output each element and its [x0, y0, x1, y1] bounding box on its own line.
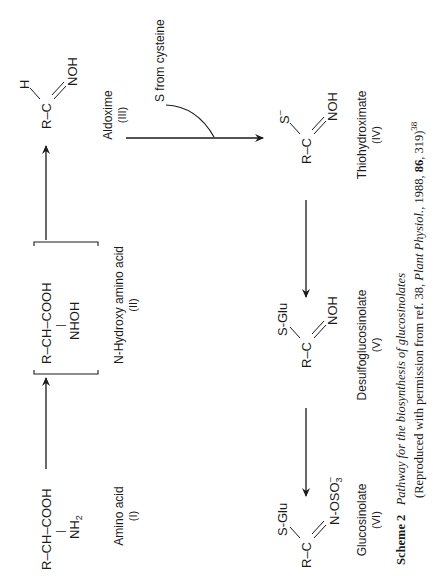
compound-name: Aldoxime — [101, 90, 115, 139]
compound-amino-acid-substituent: NH2 — [68, 515, 84, 539]
compound-thiohydroximate-bottom: NOH — [326, 92, 339, 121]
bond-bar: | — [54, 324, 66, 327]
label-n-hydroxy-amino-acid: N-Hydroxy amino acid (II) — [113, 240, 139, 370]
scheme-title: Pathway for the biosynthesis of glucosin… — [394, 273, 408, 505]
compound-n-hydroxy-substituent: NHOH — [68, 302, 81, 340]
compound-aldoxime-top: H — [18, 80, 31, 89]
compound-name: Glucosinolate — [355, 484, 369, 557]
compound-name: Desulfoglucosinolate — [355, 290, 369, 401]
compound-name: Amino acid — [112, 486, 126, 545]
cysteine-input-curve — [166, 105, 214, 137]
subscript: 2 — [74, 515, 84, 520]
noh-group: NOH — [65, 57, 80, 86]
compound-desulfoglucosinolate-core: R–C — [300, 342, 313, 368]
compound-name: N-Hydroxy amino acid — [112, 246, 126, 364]
compound-desulfoglucosinolate-top: S-Glu — [276, 303, 289, 336]
compound-glucosinolate-bottom: N-OSO3– — [326, 477, 344, 525]
pages: , 319) — [412, 131, 426, 160]
compound-glucosinolate-core: R–C — [300, 542, 313, 568]
compound-numeral: (V) — [370, 285, 383, 405]
compound-amino-acid-bond: | — [55, 530, 66, 533]
compound-glucosinolate-top: S-Glu — [276, 503, 289, 536]
compound-amino-acid-formula: R–CH–COOH — [40, 488, 53, 570]
nhoh-group: NHOH — [67, 302, 82, 340]
nh-group: NH — [67, 520, 82, 539]
s-glu-group: S-Glu — [275, 303, 290, 336]
bond-bar: | — [54, 530, 66, 533]
compound-thiohydroximate-top: S– — [276, 110, 291, 124]
reproduction-note: (Reproduced with permission from ref. 38… — [412, 281, 426, 498]
charge: – — [325, 477, 335, 482]
compound-n-hydroxy-bond: | — [55, 324, 66, 327]
noh-group: NOH — [325, 296, 340, 325]
formula-main: R–CH–COOH — [39, 488, 54, 570]
compound-numeral: (III) — [116, 80, 129, 150]
formula-main: R–CH–COOH — [39, 282, 54, 364]
journal-name: Plant Physiol. — [412, 210, 426, 281]
bracket-left — [34, 370, 98, 374]
formula-core: R–C — [299, 342, 314, 368]
subscript: 3 — [334, 477, 344, 482]
compound-numeral: (VI) — [370, 480, 383, 560]
label-desulfoglucosinolate: Desulfoglucosinolate (V) — [356, 285, 382, 405]
formula-core: R–C — [299, 542, 314, 568]
h-group: H — [17, 80, 32, 89]
caption-line-2: (Reproduced with permission from ref. 38… — [409, 122, 427, 498]
noh-group: NOH — [325, 92, 340, 121]
n-oso3-group: N-OSO — [327, 482, 342, 525]
reference-superscript: 38 — [409, 122, 419, 131]
compound-name: Thiohydroximate — [355, 91, 369, 180]
compound-desulfoglucosinolate-bottom: NOH — [326, 296, 339, 325]
s-glu-group: S-Glu — [275, 503, 290, 536]
label-thiohydroximate: Thiohydroximate (IV) — [356, 90, 382, 180]
year: , 1988, — [412, 172, 426, 210]
scheme-label: Scheme 2 — [394, 515, 408, 565]
compound-n-hydroxy-formula: R–CH–COOH — [40, 282, 53, 364]
label-glucosinolate: Glucosinolate (VI) — [356, 480, 382, 560]
volume: 86 — [412, 160, 426, 173]
charge: – — [275, 110, 285, 115]
compound-numeral: (IV) — [370, 90, 383, 180]
side-input-label: S from cysteine — [154, 19, 166, 102]
s-group: S — [277, 115, 292, 124]
bracket-right — [34, 242, 98, 246]
label-amino-acid: Amino acid (I) — [113, 476, 139, 556]
compound-numeral: (II) — [127, 240, 140, 370]
caption-line-1: Scheme 2 Pathway for the biosynthesis of… — [394, 273, 409, 565]
compound-thiohydroximate-core: R–C — [300, 138, 313, 164]
formula-core: R–C — [39, 103, 54, 129]
formula-core: R–C — [299, 138, 314, 164]
compound-aldoxime-core: R–C — [40, 103, 53, 129]
compound-aldoxime-bottom: NOH — [66, 57, 79, 86]
s-from-cysteine: S from cysteine — [153, 19, 167, 102]
label-aldoxime: Aldoxime (III) — [102, 80, 128, 150]
compound-numeral: (I) — [127, 476, 140, 556]
rotated-book-page: R–CH–COOH | NH2 Amino acid (I) R–CH–COOH… — [0, 0, 435, 576]
